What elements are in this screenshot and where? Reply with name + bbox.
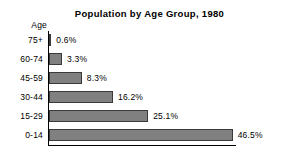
bar-value-label: 0.6% xyxy=(56,35,76,45)
bar-value-label: 25.1% xyxy=(153,111,178,121)
bar xyxy=(49,110,148,122)
bar xyxy=(49,129,233,141)
bar xyxy=(49,34,51,46)
category-label: 75+ xyxy=(0,35,43,45)
bar xyxy=(49,53,62,65)
bar xyxy=(49,91,113,103)
category-label: 60-74 xyxy=(0,54,43,64)
category-axis-caption: Age xyxy=(0,20,47,30)
value-axis-line xyxy=(48,145,236,146)
chart-title: Population by Age Group, 1980 xyxy=(42,8,257,19)
bar-row: 0-1446.5% xyxy=(0,126,290,145)
plot-area: 75+0.6%60-743.3%45-598.3%30-4416.2%15-29… xyxy=(0,31,290,149)
category-label: 0-14 xyxy=(0,130,43,140)
bar-value-label: 16.2% xyxy=(118,92,143,102)
bar-row: 30-4416.2% xyxy=(0,88,290,107)
category-label: 30-44 xyxy=(0,92,43,102)
bar-value-label: 46.5% xyxy=(238,130,263,140)
bar xyxy=(49,72,82,84)
bar-row: 60-743.3% xyxy=(0,50,290,69)
category-label: 45-59 xyxy=(0,73,43,83)
bar-chart: Population by Age Group, 1980 Age 75+0.6… xyxy=(0,0,290,159)
bar-value-label: 3.3% xyxy=(67,54,87,64)
bar-row: 75+0.6% xyxy=(0,31,290,50)
bar-row: 45-598.3% xyxy=(0,69,290,88)
bar-value-label: 8.3% xyxy=(87,73,107,83)
category-label: 15-29 xyxy=(0,111,43,121)
bar-row: 15-2925.1% xyxy=(0,107,290,126)
